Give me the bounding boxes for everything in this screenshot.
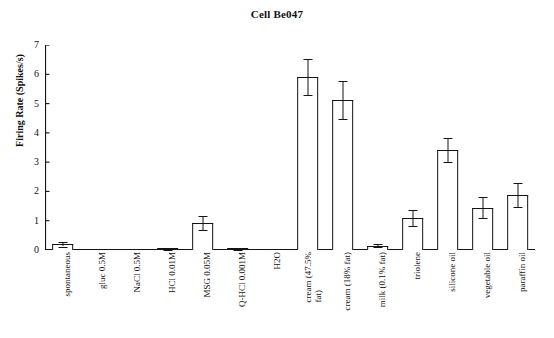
error-bar-cap: [408, 226, 417, 227]
error-bar-cap: [303, 59, 312, 60]
bar: [437, 150, 459, 250]
bar-group: [395, 45, 430, 250]
error-bar-cap: [478, 218, 487, 219]
error-bar-cap: [198, 230, 207, 231]
x-tick-label-slot: HCl 0.01M: [150, 252, 185, 338]
bar-group: [45, 45, 80, 250]
error-bar-cap: [513, 183, 522, 184]
bar-group: [465, 45, 500, 250]
x-tick-label: spontaneous: [63, 252, 73, 297]
x-tick-label: cream (18% fat): [343, 252, 353, 310]
y-tick-label: 0: [23, 244, 39, 255]
error-bar-cap: [338, 81, 347, 82]
error-bar-cap: [303, 95, 312, 96]
x-tick-label-slot: gluc 0.5M: [80, 252, 115, 338]
error-bar-cap: [58, 242, 67, 243]
bar-group: [185, 45, 220, 250]
error-bar-cap: [408, 210, 417, 211]
y-tick-label: 7: [23, 39, 39, 50]
error-bar-cap: [443, 138, 452, 139]
bar: [122, 249, 144, 250]
x-tick-label: Q-HCl 0.001M: [238, 252, 248, 307]
bar-group: [290, 45, 325, 250]
x-tick-label: triolene: [413, 252, 423, 280]
x-tick-label: gluc 0.5M: [98, 252, 108, 289]
x-tick-label-slot: cream (47.5%fat): [290, 252, 325, 338]
error-bar-cap: [58, 247, 67, 248]
bar: [87, 249, 109, 250]
error-bar-cap: [233, 250, 242, 251]
chart-figure: Cell Be047 Firing Rate (Spikes/s) 012345…: [0, 0, 554, 338]
bar-group: [500, 45, 535, 250]
y-tick-label: 4: [23, 127, 39, 138]
x-tick-label: H2O: [273, 252, 283, 270]
error-bar: [517, 183, 518, 208]
error-bar-cap: [198, 216, 207, 217]
chart-title: Cell Be047: [0, 8, 554, 20]
bar-group: [115, 45, 150, 250]
x-tick-label-slot: H2O: [255, 252, 290, 338]
x-tick-label-slot: cream (18% fat): [325, 252, 360, 338]
x-tick-label-slot: milk (0.1% fat): [360, 252, 395, 338]
x-tick-label: cream (47.5%fat): [304, 252, 323, 302]
bar-series: [45, 45, 535, 250]
bar-group: [325, 45, 360, 250]
error-bar-cap: [478, 197, 487, 198]
y-tick-label: 5: [23, 98, 39, 109]
x-tick-label-slot: silicone oil: [430, 252, 465, 338]
bar-group: [220, 45, 255, 250]
x-tick-label: paraffin oil: [518, 252, 528, 292]
error-bar: [307, 59, 308, 95]
error-bar-cap: [373, 244, 382, 245]
x-tick-label: silicone oil: [448, 252, 458, 292]
x-tick-label: milk (0.1% fat): [378, 252, 388, 307]
x-tick-label: vegetable oil: [483, 252, 493, 298]
y-tick-label: 2: [23, 185, 39, 196]
bar: [332, 100, 354, 250]
y-tick-label: 6: [23, 68, 39, 79]
bar: [262, 249, 284, 250]
error-bar: [342, 81, 343, 120]
x-tick-label-slot: NaCl 0.5M: [115, 252, 150, 338]
x-tick-label: MSG 0.05M: [203, 252, 213, 298]
error-bar-cap: [163, 250, 172, 251]
x-tick-label-slot: MSG 0.05M: [185, 252, 220, 338]
x-tick-label-slot: triolene: [395, 252, 430, 338]
x-tick-label-slot: spontaneous: [45, 252, 80, 338]
error-bar-cap: [373, 247, 382, 248]
error-bar-cap: [513, 207, 522, 208]
x-tick-label: NaCl 0.5M: [133, 252, 143, 293]
x-tick-label: HCl 0.01M: [168, 252, 178, 293]
error-bar-cap: [338, 119, 347, 120]
error-bar: [482, 197, 483, 218]
bar-group: [80, 45, 115, 250]
y-tick-label: 1: [23, 215, 39, 226]
bar-group: [255, 45, 290, 250]
bar-group: [430, 45, 465, 250]
bar-group: [150, 45, 185, 250]
bar-group: [360, 45, 395, 250]
error-bar: [202, 216, 203, 230]
bar: [297, 77, 319, 250]
error-bar: [447, 138, 448, 163]
x-tick-label-slot: Q-HCl 0.001M: [220, 252, 255, 338]
x-tick-label-slot: vegetable oil: [465, 252, 500, 338]
error-bar: [412, 210, 413, 226]
error-bar-cap: [443, 162, 452, 163]
y-tick-label: 3: [23, 156, 39, 167]
x-tick-label-slot: paraffin oil: [500, 252, 535, 338]
x-tick-labels: spontaneousgluc 0.5MNaCl 0.5MHCl 0.01MMS…: [45, 252, 535, 338]
